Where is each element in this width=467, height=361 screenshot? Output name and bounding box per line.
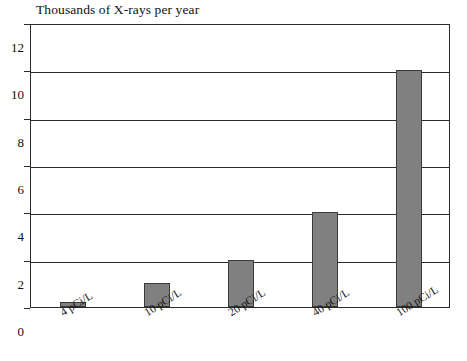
bar-100-pci-l [396,70,422,307]
y-tick-label-12: 12 [11,40,24,56]
radon-xray-bar-chart: Thousands of X-rays per year 024681012 4… [0,0,467,361]
x-axis-tick-labels: 4 pCi/L10 pCi/L20 pCi/L40 pCi/L100 pCi/L [0,308,467,361]
y-tick-label-6: 6 [18,182,25,198]
plot-area [30,24,450,308]
bars-layer [31,25,449,307]
y-axis-tick-labels: 024681012 [0,48,24,332]
y-tick-label-8: 8 [18,135,25,151]
y-axis: 024681012 [0,24,30,308]
y-tick-label-10: 10 [11,87,24,103]
y-tick-label-4: 4 [18,229,25,245]
chart-title: Thousands of X-rays per year [36,2,199,18]
y-tick-label-2: 2 [18,277,25,293]
